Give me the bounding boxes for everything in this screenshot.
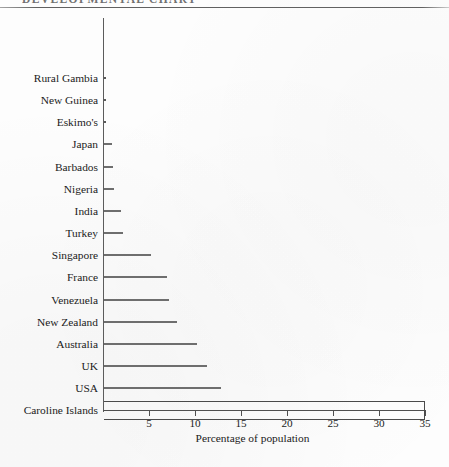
x-tick-label: 20 (272, 417, 302, 429)
bar (104, 321, 177, 323)
bar (104, 299, 169, 301)
category-label: Rural Gambia (0, 72, 98, 84)
x-tick-mark (425, 410, 426, 416)
bar (104, 343, 197, 345)
x-tick-mark (241, 410, 242, 416)
bar (104, 77, 106, 79)
category-label: Nigeria (0, 183, 98, 195)
x-axis-title-text: Percentage of population (196, 432, 310, 444)
category-label: Barbados (0, 161, 98, 173)
bar (104, 210, 121, 212)
x-tick-label: 30 (364, 417, 394, 429)
x-tick-label: 5 (134, 417, 164, 429)
category-label: Caroline Islands (0, 404, 98, 416)
bar (104, 188, 114, 190)
bar (104, 121, 106, 123)
bar-chart: Rural GambiaNew GuineaEskimo'sJapanBarba… (0, 0, 449, 467)
x-tick-label: 25 (318, 417, 348, 429)
x-tick-mark (379, 410, 380, 416)
x-tick-mark (287, 410, 288, 416)
bar (104, 387, 221, 389)
bar (104, 365, 207, 367)
x-tick-label: 15 (226, 417, 256, 429)
x-tick-mark (149, 410, 150, 416)
category-label: Venezuela (0, 294, 98, 306)
category-label: New Guinea (0, 94, 98, 106)
x-tick-label: 10 (180, 417, 210, 429)
bar (104, 166, 113, 168)
x-axis-title: Percentage of population (0, 432, 449, 444)
category-label: Eskimo's (0, 116, 98, 128)
page-root: DEVELOPMENTAL CHART Rural GambiaNew Guin… (0, 0, 449, 467)
bar (104, 232, 123, 234)
category-label: New Zealand (0, 316, 98, 328)
bar (104, 276, 167, 278)
category-label: Turkey (0, 227, 98, 239)
category-label: India (0, 205, 98, 217)
category-label: USA (0, 382, 98, 394)
category-label: Singapore (0, 249, 98, 261)
x-tick-mark (195, 410, 196, 416)
category-label: Japan (0, 138, 98, 150)
bar (104, 254, 151, 256)
x-tick-label: 35 (410, 417, 440, 429)
category-label: France (0, 271, 98, 283)
bar (104, 99, 106, 101)
x-tick-mark (333, 410, 334, 416)
bar (104, 143, 112, 145)
category-label: Australia (0, 338, 98, 350)
category-label: UK (0, 360, 98, 372)
